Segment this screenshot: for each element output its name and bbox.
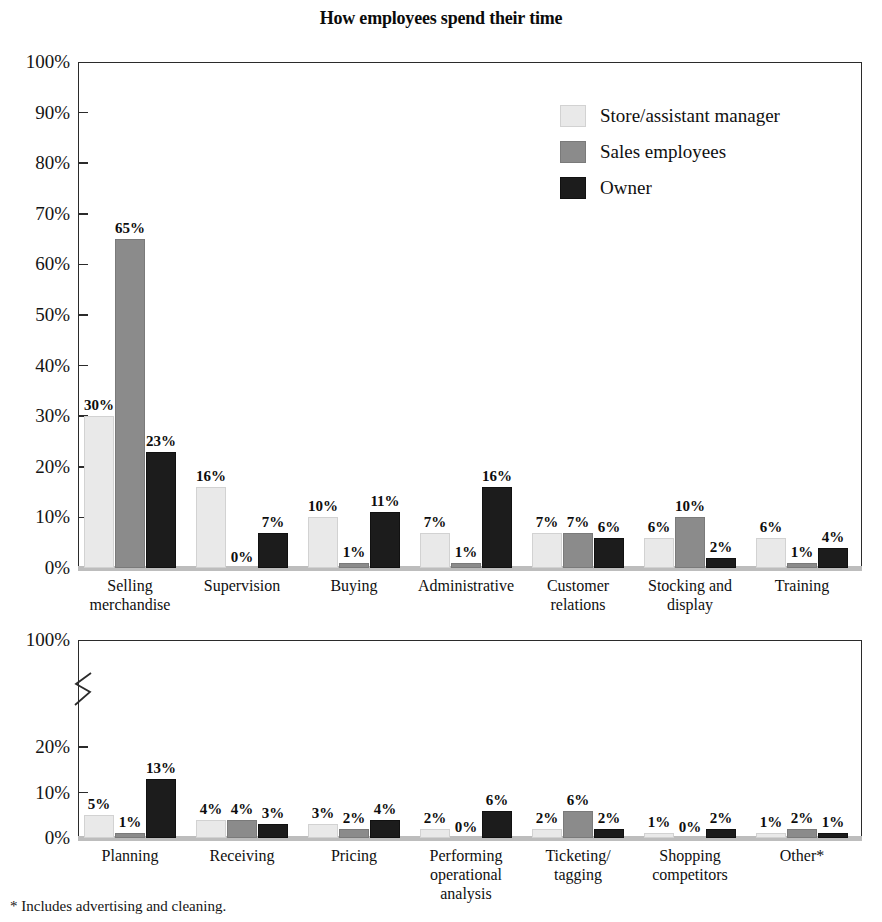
bar-value-label: 5% (88, 796, 111, 813)
legend-label: Owner (600, 177, 652, 199)
bar[interactable] (706, 829, 736, 838)
bar[interactable] (370, 820, 400, 838)
bar[interactable] (532, 533, 562, 568)
bar-value-label: 10% (308, 498, 338, 515)
bar-value-label: 3% (262, 805, 285, 822)
bar-value-label: 2% (710, 810, 733, 827)
y-axis-tick-mark (78, 112, 88, 114)
bar[interactable] (818, 833, 848, 838)
bar-value-label: 2% (710, 539, 733, 556)
bar[interactable] (308, 517, 338, 568)
bar-value-label: 1% (119, 814, 142, 831)
legend-item-sales-employees[interactable]: Sales employees (560, 134, 780, 170)
bar[interactable] (84, 815, 114, 838)
bar[interactable] (787, 829, 817, 838)
x-axis-category-label: Training (736, 576, 868, 595)
y-axis-tick-mark (78, 162, 88, 164)
y-axis-tick-label: 70% (0, 203, 70, 225)
bar-value-label: 2% (424, 810, 447, 827)
bar[interactable] (115, 833, 145, 838)
y-axis-tick-label: 40% (0, 355, 70, 377)
bar-value-label: 0% (679, 819, 702, 836)
bar-value-label: 6% (486, 792, 509, 809)
bar[interactable] (563, 811, 593, 838)
bar-value-label: 0% (231, 549, 254, 566)
axis-break-icon (70, 672, 92, 706)
bar-value-label: 23% (146, 433, 176, 450)
bar-value-label: 7% (424, 514, 447, 531)
y-axis-tick-label: 90% (0, 102, 70, 124)
bar[interactable] (532, 829, 562, 838)
bar[interactable] (420, 533, 450, 568)
bar-value-label: 6% (567, 792, 590, 809)
y-axis-tick-mark (78, 314, 88, 316)
y-axis-tick-label: 60% (0, 253, 70, 275)
bar[interactable] (756, 833, 786, 838)
legend-item-owner[interactable]: Owner (560, 170, 780, 206)
bar[interactable] (594, 829, 624, 838)
black-swatch-icon (560, 177, 586, 199)
y-axis-tick-label: 80% (0, 152, 70, 174)
bar[interactable] (563, 533, 593, 568)
bar[interactable] (84, 416, 114, 568)
bar-value-label: 1% (822, 814, 845, 831)
y-axis-tick-mark (78, 365, 88, 367)
bar[interactable] (146, 779, 176, 838)
bar-value-label: 6% (598, 519, 621, 536)
light-gray-swatch-icon (560, 105, 586, 127)
bar[interactable] (196, 487, 226, 568)
bar[interactable] (644, 833, 674, 838)
bar-value-label: 1% (648, 814, 671, 831)
bar-value-label: 4% (374, 801, 397, 818)
bar-value-label: 6% (648, 519, 671, 536)
legend: Store/assistant manager Sales employees … (560, 98, 780, 206)
bar[interactable] (258, 824, 288, 838)
y-axis-tick-label: 20% (0, 736, 70, 758)
bar[interactable] (196, 820, 226, 838)
y-axis-tick-label: 10% (0, 782, 70, 804)
y-axis-tick-label: 0% (0, 557, 70, 579)
bar[interactable] (644, 538, 674, 568)
bar-value-label: 30% (84, 397, 114, 414)
y-axis-tick-label: 0% (0, 827, 70, 849)
bar[interactable] (258, 533, 288, 568)
bar[interactable] (339, 829, 369, 838)
bar-value-label: 11% (370, 493, 399, 510)
bar[interactable] (227, 820, 257, 838)
y-axis-tick-label: 20% (0, 456, 70, 478)
bar[interactable] (146, 452, 176, 568)
legend-label: Store/assistant manager (600, 105, 780, 127)
bar[interactable] (594, 538, 624, 568)
bar-value-label: 2% (343, 810, 366, 827)
bar-value-label: 2% (536, 810, 559, 827)
page-title: How employees spend their time (0, 8, 882, 29)
bar[interactable] (756, 538, 786, 568)
bar-value-label: 4% (822, 529, 845, 546)
legend-item-store-assistant-manager[interactable]: Store/assistant manager (560, 98, 780, 134)
bar-value-label: 6% (760, 519, 783, 536)
bar[interactable] (482, 811, 512, 838)
bar[interactable] (339, 563, 369, 568)
bar[interactable] (420, 829, 450, 838)
legend-label: Sales employees (600, 141, 726, 163)
bar[interactable] (675, 517, 705, 568)
bar[interactable] (787, 563, 817, 568)
bar[interactable] (482, 487, 512, 568)
y-axis-tick-label: 50% (0, 304, 70, 326)
bar-value-label: 0% (455, 819, 478, 836)
y-axis-tick-mark (78, 746, 88, 748)
y-axis-tick-mark (78, 213, 88, 215)
bar[interactable] (706, 558, 736, 568)
y-axis-tick-label: 10% (0, 506, 70, 528)
bar[interactable] (818, 548, 848, 568)
bar-value-label: 7% (262, 514, 285, 531)
bar[interactable] (308, 824, 338, 838)
bar[interactable] (115, 239, 145, 568)
bar-value-label: 1% (343, 544, 366, 561)
bar[interactable] (370, 512, 400, 568)
bar-value-label: 16% (482, 468, 512, 485)
y-axis-tick-label: 100% (0, 629, 70, 651)
y-axis-tick-mark (78, 264, 88, 266)
bar[interactable] (451, 563, 481, 568)
x-axis-category-label: Other* (736, 846, 868, 865)
